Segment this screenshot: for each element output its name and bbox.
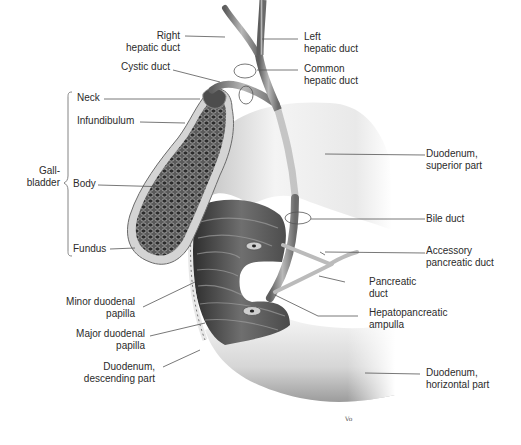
label-left-hepatic-duct: Left hepatic duct [304,31,358,55]
label-accessory-pancreatic-duct: Accessory pancreatic duct [426,245,494,269]
label-bile-duct: Bile duct [426,213,464,225]
label-hepatopancreatic-ampulla: Hepatopancreatic ampulla [369,307,447,331]
label-duodenum-descending-part: Duodenum, descending part [84,361,155,385]
gallbladder-bracket [64,92,72,256]
label-duodenum-horizontal-part: Duodenum, horizontal part [426,367,489,391]
label-neck: Neck [77,92,100,104]
label-duodenum-superior-part: Duodenum, superior part [426,148,482,172]
label-gallbladder: Gall- bladder [27,165,60,189]
artist-signature: Vo [344,415,353,422]
label-common-hepatic-duct: Common hepatic duct [304,63,358,87]
label-major-duodenal-papilla: Major duodenal papilla [76,328,145,352]
label-right-hepatic-duct: Right hepatic duct [126,30,180,54]
right-hepatic-duct [225,8,258,55]
duodenum-descending-lumen [191,200,290,345]
label-infundibulum: Infundibulum [77,115,134,127]
left-hepatic-duct [260,0,263,55]
accessory-pancreatic-duct-shape [283,245,357,264]
label-body: Body [73,178,96,190]
label-pancreatic-duct: Pancreatic duct [369,276,416,300]
label-fundus: Fundus [73,243,106,255]
label-cystic-duct: Cystic duct [121,61,170,73]
label-minor-duodenal-papilla: Minor duodenal papilla [66,296,135,320]
